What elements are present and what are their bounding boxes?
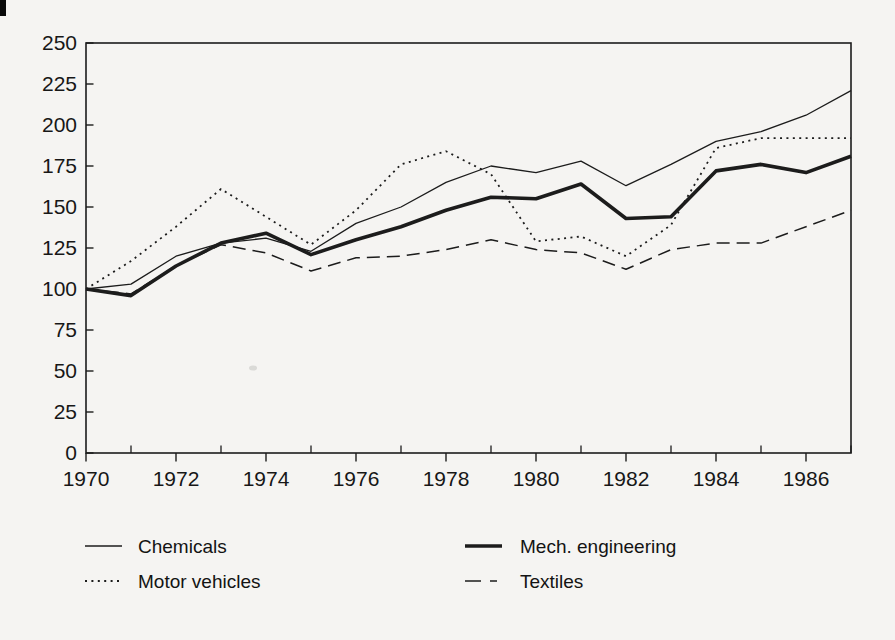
scan-artifact-corner (0, 0, 6, 16)
y-axis-tick-label: 200 (42, 113, 77, 136)
y-axis-tick-label: 75 (54, 318, 77, 341)
series-line-mech-engineering (86, 156, 851, 295)
y-axis-tick-label: 175 (42, 154, 77, 177)
motor-vehicles-legend-label: Motor vehicles (138, 571, 261, 592)
y-axis-tick-label: 25 (54, 400, 77, 423)
y-axis-tick-label: 50 (54, 359, 77, 382)
x-axis-tick-label: 1978 (423, 467, 470, 490)
x-axis-tick-label: 1986 (783, 467, 830, 490)
plot-frame (86, 43, 851, 453)
x-axis-tick-label: 1980 (513, 467, 560, 490)
scan-smudge (249, 366, 257, 371)
scanned-line-chart-page: 0255075100125150175200225250197019721974… (0, 0, 895, 640)
y-axis-tick-label: 150 (42, 195, 77, 218)
series-line-chemicals (86, 91, 851, 289)
chemicals-legend-label: Chemicals (138, 536, 227, 557)
y-axis-tick-label: 250 (42, 31, 77, 54)
x-axis-tick-label: 1984 (693, 467, 740, 490)
textiles-legend-label: Textiles (520, 571, 583, 592)
y-axis-tick-label: 100 (42, 277, 77, 300)
y-axis-tick-label: 0 (65, 441, 77, 464)
mech-engineering-legend-label: Mech. engineering (520, 536, 676, 557)
index-line-chart: 0255075100125150175200225250197019721974… (0, 0, 895, 640)
x-axis-tick-label: 1976 (333, 467, 380, 490)
series-line-motor-vehicles (86, 138, 851, 289)
y-axis-tick-label: 125 (42, 236, 77, 259)
x-axis-tick-label: 1972 (153, 467, 200, 490)
y-axis-tick-label: 225 (42, 72, 77, 95)
x-axis-tick-label: 1982 (603, 467, 650, 490)
x-axis-tick-label: 1970 (63, 467, 110, 490)
x-axis-tick-label: 1974 (243, 467, 290, 490)
chart-legend: Chemicals Motor vehicles Mech. engineeri… (85, 536, 676, 592)
plot-area: 0255075100125150175200225250197019721974… (42, 31, 851, 490)
